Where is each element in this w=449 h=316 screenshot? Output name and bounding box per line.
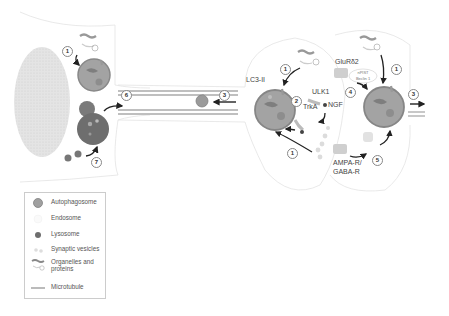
legend-item-lysosome: Lysosome — [25, 228, 105, 242]
organelles-proteins-icon — [31, 258, 45, 272]
label-npist: nPIST — [354, 70, 372, 75]
microtubule-icon — [31, 283, 45, 293]
label-beclin1: Beclin 1 — [353, 76, 373, 81]
legend-item-microtubule: Microtubule — [25, 281, 105, 295]
ampa-gaba-receptor — [333, 144, 347, 154]
legend-item-endosome: Endosome — [25, 212, 105, 226]
lysosome-small — [75, 151, 82, 158]
legend-label: Lysosome — [51, 230, 79, 237]
synaptic-vesicles-icon — [31, 245, 45, 255]
lysosome-small — [65, 155, 72, 162]
label-lc3-ii: LC3-II — [246, 76, 265, 83]
step-1-presynaptic: 1 — [280, 64, 291, 75]
label-glurd2: GluRδ2 — [335, 58, 359, 65]
legend-label: Microtubule — [51, 283, 84, 290]
autolysosome-soma — [77, 101, 109, 145]
autophagosome-postsynaptic — [364, 86, 404, 127]
organelles-postsynaptic — [360, 37, 380, 51]
autophagosome-presynaptic — [255, 89, 295, 130]
legend-item-synaptic-vesicles: Synaptic vesicles — [25, 243, 105, 257]
organelles-soma — [80, 35, 98, 52]
autophagosome-icon — [31, 198, 45, 208]
synaptic-vesicles — [316, 126, 330, 159]
label-trka: TrkA — [303, 103, 318, 110]
organelles-presynaptic — [298, 51, 319, 66]
label-ulk1: ULK1 — [312, 88, 330, 95]
legend-item-organelles-proteins: Organelles and proteins — [25, 256, 105, 278]
legend-label: Autophagosome — [51, 198, 97, 205]
legend-label: Synaptic vesicles — [51, 245, 99, 252]
glurd2-receptor — [334, 68, 348, 78]
step-3-axon: 3 — [219, 90, 230, 101]
step-2-presynaptic: 2 — [291, 96, 302, 107]
step-1-soma: 1 — [62, 46, 73, 57]
legend-item-autophagosome: Autophagosome — [25, 196, 105, 210]
step-5-postsynaptic: 5 — [372, 155, 383, 166]
step-6-axon: 6 — [121, 90, 132, 101]
endosome-postsynaptic — [363, 132, 373, 142]
step-7-soma: 7 — [91, 157, 102, 168]
autophagosome-soma — [78, 59, 110, 91]
label-gaba-r: GABA-R — [333, 168, 360, 175]
label-ngf: NGF — [328, 101, 343, 108]
legend: Autophagosome Endosome Lysosome Synaptic… — [24, 192, 106, 299]
legend-label: Endosome — [51, 214, 81, 221]
step-3-postsynaptic: 3 — [408, 89, 419, 100]
step-1-presynaptic-bottom: 1 — [287, 148, 298, 159]
ngf-dot — [323, 103, 327, 107]
step-1-postsynaptic: 1 — [391, 64, 402, 75]
legend-label: Organelles and proteins — [51, 258, 103, 272]
label-ampa-r: AMPA-R/ — [333, 159, 362, 166]
lysosome-icon — [31, 230, 45, 240]
neuron-autophagy-diagram: 1 7 6 3 1 2 1 1 4 5 3 LC3-II ULK1 TrkA N… — [0, 0, 449, 316]
autophagosome-axonal — [196, 94, 208, 107]
endosome-icon — [31, 214, 45, 224]
nucleus — [14, 47, 70, 157]
step-4-postsynaptic: 4 — [345, 87, 356, 98]
